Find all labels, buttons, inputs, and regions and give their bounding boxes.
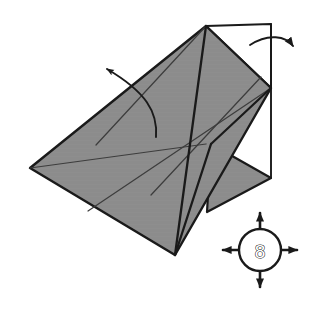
- badge-step-number: 8: [255, 241, 266, 262]
- origami-diagram: 8: [0, 0, 317, 311]
- origami-figure-svg: 8: [0, 0, 317, 311]
